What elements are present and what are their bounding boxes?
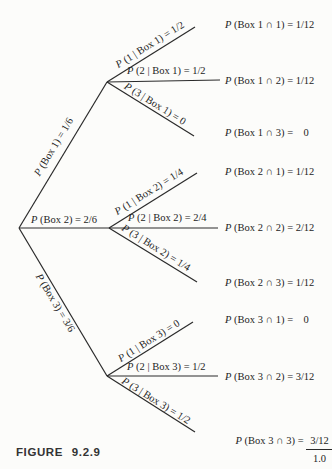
branch-root-box3 (19, 228, 107, 376)
outcome-text: (Box 3 ∩ 3) = (242, 435, 306, 446)
outcome-text: (Box 3 ∩ 2) = 3/12 (231, 371, 314, 382)
outcome-text: (Box 1 ∩ 2) = 1/12 (231, 75, 314, 86)
branch-label-text: (2 | Box 3) = 1/2 (133, 361, 205, 372)
outcome-text: (Box 3 ∩ 1) = 0 (231, 314, 308, 325)
outcome-box1-and-3: P (Box 1 ∩ 3) = 0 (225, 127, 309, 139)
outcome-text: (Box 2 ∩ 2) = 2/12 (231, 222, 314, 233)
column-total: 1.0 (306, 450, 332, 465)
branch-root-box1 (19, 82, 107, 228)
outcome-box3-and-1: P (Box 3 ∩ 1) = 0 (225, 314, 309, 326)
outcome-text: (Box 2 ∩ 1) = 1/12 (231, 166, 314, 177)
outcome-box2-and-3: P (Box 2 ∩ 3) = 1/12 (225, 277, 314, 289)
figure-9-2-9-tree-diagram: P (Box 1) = 1/6 P (Box 2) = 2/6 P (Box 3… (0, 0, 332, 469)
branch-label-2-given-box1: P (2 | Box 1) = 1/2 (127, 65, 206, 77)
branch-box1-2 (107, 80, 220, 82)
branch-box2-3 (109, 228, 197, 282)
fraction-numerator: 3/12 (306, 435, 332, 450)
outcome-text: (Box 1 ∩ 3) = 0 (231, 127, 308, 138)
branch-label-2-given-box3: P (2 | Box 3) = 1/2 (127, 361, 206, 373)
outcome-text: (Box 2 ∩ 3) = 1/12 (231, 277, 314, 288)
outcome-box2-and-2: P (Box 2 ∩ 2) = 2/12 (225, 222, 314, 234)
outcome-box1-and-1: P (Box 1 ∩ 1) = 1/12 (225, 19, 314, 31)
outcome-box1-and-2: P (Box 1 ∩ 2) = 1/12 (225, 75, 314, 87)
figure-caption: FIGURE 9.2.9 (16, 446, 100, 458)
branch-label-box2: P (Box 2) = 2/6 (31, 214, 97, 226)
outcome-text: (Box 1 ∩ 1) = 1/12 (231, 19, 314, 30)
outcome-box2-and-1: P (Box 2 ∩ 1) = 1/12 (225, 166, 314, 178)
branch-label-2-given-box2: P (2 | Box 2) = 2/4 (128, 212, 207, 224)
branch-label-text: (2 | Box 1) = 1/2 (133, 65, 205, 76)
branch-label-text: (2 | Box 2) = 2/4 (134, 212, 206, 223)
outcome-box3-and-3: P (Box 3 ∩ 3) = 3/121.0 (225, 423, 332, 469)
outcome-box3-and-2: P (Box 3 ∩ 2) = 3/12 (225, 371, 314, 383)
branch-label-text: (Box 2) = 2/6 (37, 214, 97, 225)
sum-fraction: 3/121.0 (306, 435, 332, 465)
